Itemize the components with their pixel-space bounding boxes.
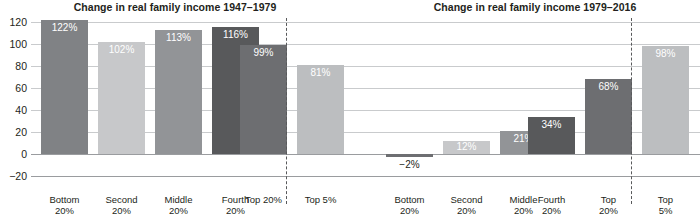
- xlabel-line1: Top 5%: [293, 194, 348, 205]
- bar-value-left-fourth20: 116%: [212, 30, 259, 40]
- bar-left-middle20[interactable]: 113%: [155, 30, 202, 154]
- panel-divider-left: [286, 18, 287, 204]
- bar-value-right-top5: 98%: [642, 49, 689, 59]
- xlabel-line2: 5%: [642, 205, 689, 216]
- ytick-20: 20: [0, 127, 27, 138]
- ytick-minus20: −20: [0, 171, 27, 182]
- bar-left-bottom20[interactable]: 122%: [41, 20, 88, 154]
- xlabel-line2: 20%: [212, 205, 259, 216]
- bar-value-left-second20: 102%: [98, 45, 145, 55]
- ytick-120: 120: [0, 17, 27, 28]
- xlabel-line1: Second: [98, 194, 145, 205]
- ytick-0: 0: [0, 149, 27, 160]
- bar-left-top20[interactable]: 99%: [240, 45, 287, 154]
- xlabel-left-second20: Second 20%: [98, 194, 145, 216]
- xlabel-line2: 20%: [386, 205, 433, 216]
- chart-container: Change in real family income 1947–1979 C…: [0, 0, 700, 223]
- xlabel-right-top5: Top 5%: [642, 194, 689, 216]
- ytick-40: 40: [0, 105, 27, 116]
- xlabel-line1: Middle: [155, 194, 202, 205]
- bar-right-top20[interactable]: 68%: [585, 79, 632, 154]
- gridline-zero: [31, 154, 700, 155]
- gridline-minus20: [31, 176, 700, 177]
- xlabel-right-fourth20: Fourth 20%: [528, 194, 575, 216]
- bar-value-left-middle20: 113%: [155, 33, 202, 43]
- xlabel-line2: 20%: [443, 205, 490, 216]
- bar-left-second20[interactable]: 102%: [98, 42, 145, 154]
- panel-title-right: Change in real family income 1979–2016: [422, 1, 648, 13]
- ytick-60: 60: [0, 83, 27, 94]
- panel-title-left: Change in real family income 1947–1979: [62, 1, 288, 13]
- bar-right-second20[interactable]: 12%: [443, 141, 490, 154]
- xlabel-line1: Top: [585, 194, 632, 205]
- bar-value-left-top20: 99%: [240, 48, 287, 58]
- xlabel-right-bottom20: Bottom 20%: [386, 194, 433, 216]
- xlabel-line1: Bottom: [386, 194, 433, 205]
- xlabel-left-middle20: Middle 20%: [155, 194, 202, 216]
- bar-right-fourth20[interactable]: 34%: [528, 117, 575, 154]
- xlabel-line1: Top: [642, 194, 689, 205]
- xlabel-line1: Second: [443, 194, 490, 205]
- panel-divider-right: [631, 18, 632, 204]
- bar-right-top5[interactable]: 98%: [642, 46, 689, 154]
- bar-value-right-top20: 68%: [585, 82, 632, 92]
- xlabel-line2: 20%: [98, 205, 145, 216]
- xlabel-right-top20: Top 20%: [585, 194, 632, 216]
- ytick-100: 100: [0, 39, 27, 50]
- bar-value-right-bottom20: −2%: [386, 160, 433, 170]
- xlabel-line2: 20%: [528, 205, 575, 216]
- bar-value-left-bottom20: 122%: [41, 23, 88, 33]
- xlabel-left-top20: Top 20%: [236, 194, 291, 205]
- xlabel-line2: 20%: [585, 205, 632, 216]
- xlabel-left-bottom20: Bottom 20%: [41, 194, 88, 216]
- xlabel-line1: Bottom: [41, 194, 88, 205]
- xlabel-line2: 20%: [155, 205, 202, 216]
- plot-area: 120 100 80 60 40 20 0 −20 122% 102% 113%…: [0, 18, 700, 170]
- bar-right-bottom20[interactable]: −2%: [386, 154, 433, 157]
- bar-value-right-second20: 12%: [443, 142, 490, 152]
- xlabel-left-top5: Top 5%: [293, 194, 348, 205]
- xlabel-line2: 20%: [41, 205, 88, 216]
- bar-value-left-top5: 81%: [297, 68, 344, 78]
- bar-value-right-fourth20: 34%: [528, 120, 575, 130]
- xlabel-line1: Top 20%: [236, 194, 291, 205]
- bar-left-top5[interactable]: 81%: [297, 65, 344, 154]
- xlabel-right-second20: Second 20%: [443, 194, 490, 216]
- xlabel-line1: Fourth: [528, 194, 575, 205]
- ytick-80: 80: [0, 61, 27, 72]
- gridline-120: [31, 22, 700, 23]
